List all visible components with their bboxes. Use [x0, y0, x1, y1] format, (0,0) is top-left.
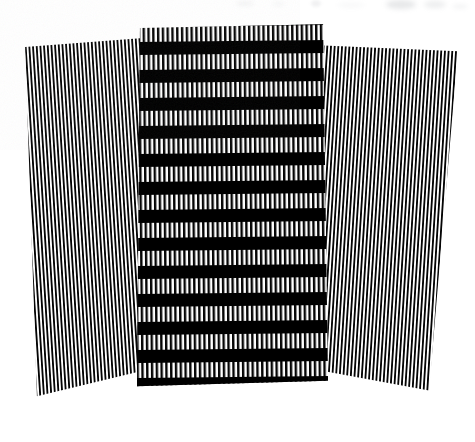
right-panel	[318, 38, 470, 413]
center-bands-svg	[134, 22, 332, 390]
left-panel	[2, 38, 154, 413]
center-panel-horizontal-bands	[134, 22, 332, 390]
figure-canvas	[0, 0, 475, 442]
scan-smudge-6	[424, 1, 446, 8]
scan-smudge-7	[452, 4, 468, 9]
left-grating-svg	[2, 38, 154, 413]
right-panel-grating	[318, 38, 470, 413]
scan-smudge-5	[386, 0, 416, 9]
scan-smudge-3	[311, 0, 321, 7]
left-panel-grating	[2, 38, 154, 413]
right-grating-svg	[318, 38, 470, 413]
scan-smudge-4	[338, 3, 364, 7]
scan-smudge-1	[236, 1, 254, 6]
scan-smudge-2	[272, 2, 285, 6]
center-panel	[134, 22, 332, 390]
